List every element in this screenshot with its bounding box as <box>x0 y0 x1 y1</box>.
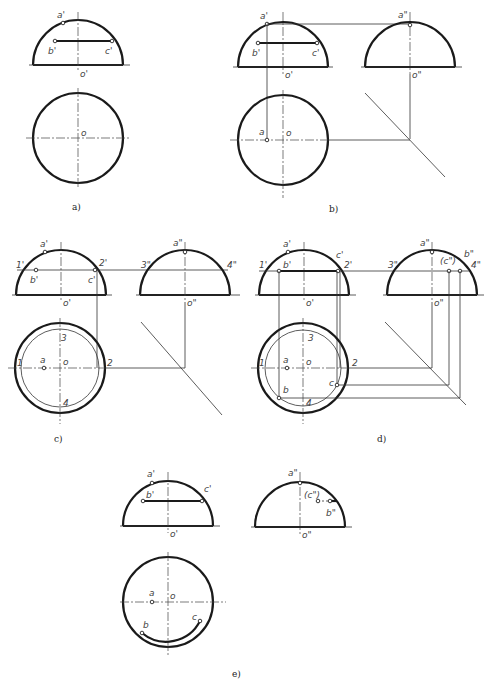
label-1-front: 1' <box>16 260 24 270</box>
point-c-front <box>93 268 97 272</box>
label-a-front: a' <box>57 10 65 20</box>
label-4-top: 4 <box>63 398 69 408</box>
point-c-top <box>335 383 339 387</box>
label-c-front: c' <box>204 484 211 494</box>
label-1-front: 1' <box>259 260 267 270</box>
point-b-front <box>53 39 57 43</box>
label-a-top: a <box>40 355 46 365</box>
point-c-front <box>315 41 319 45</box>
point-b-top <box>140 631 144 635</box>
label-c-front: c' <box>88 275 95 285</box>
point-b-front <box>141 499 145 503</box>
label-o-top: o <box>306 357 312 367</box>
hemisphere-projection-diagram: a' b' c' o' o a) a' b' c' o' a" o" <box>0 0 492 687</box>
point-a-top <box>285 366 289 370</box>
label-a-side: a" <box>420 238 430 248</box>
label-4-side: 4" <box>471 260 481 270</box>
label-a-top: a <box>283 355 289 365</box>
point-c-front <box>200 499 204 503</box>
point-a-front <box>43 250 47 254</box>
label-b-front: b' <box>283 260 291 270</box>
panel-c: a' b' c' 1' 2' o' a" 3" 4" o" a o 1 2 3 … <box>8 238 240 444</box>
point-c-front <box>110 39 114 43</box>
label-2-front: 2' <box>344 260 352 270</box>
label-a-top: a <box>149 588 155 598</box>
label-1-top: 1 <box>17 358 23 368</box>
label-b-front: b' <box>30 275 38 285</box>
label-o-side: o" <box>187 298 197 308</box>
label-a-top: a <box>259 127 265 137</box>
point-a-top <box>265 138 269 142</box>
label-o-side: o" <box>302 530 312 540</box>
panel-e: a' b' c' o' a" (c") b" o" a b c o e) <box>120 468 352 679</box>
label-a-front: a' <box>147 469 155 479</box>
panel-b: a' b' c' o' a" o" a o b) <box>230 10 462 214</box>
label-c-front: c' <box>105 46 112 56</box>
label-c-top: c <box>192 612 197 622</box>
label-o-top: o <box>286 128 292 138</box>
point-a-side <box>183 250 187 254</box>
point-a-front <box>150 481 154 485</box>
label-b-side: b" <box>326 508 336 518</box>
label-a-side: a" <box>398 10 408 20</box>
label-c-top: c <box>329 378 334 388</box>
label-3-side: 3" <box>388 260 398 270</box>
caption-a: a) <box>72 202 81 212</box>
point-a-top <box>150 600 154 604</box>
miter-line <box>385 322 466 405</box>
label-2-top: 2 <box>107 358 113 368</box>
label-b-front: b' <box>48 46 56 56</box>
caption-c: c) <box>54 434 63 444</box>
caption-b: b) <box>329 204 338 214</box>
label-2-top: 2 <box>352 358 358 368</box>
label-a-front: a' <box>260 11 268 21</box>
label-b-front: b' <box>146 490 154 500</box>
label-o-front: o' <box>285 70 293 80</box>
point-c-top <box>198 619 202 623</box>
label-o-front: o' <box>80 69 88 79</box>
label-3-side: 3" <box>141 260 151 270</box>
bc-top-arc <box>142 621 200 642</box>
label-1-top: 1 <box>259 358 265 368</box>
label-a-side: a" <box>173 238 183 248</box>
label-b-top: b <box>143 620 149 630</box>
miter-line <box>141 322 222 415</box>
label-o-top: o <box>63 357 69 367</box>
point-a-side <box>430 250 434 254</box>
point-b-top <box>277 396 281 400</box>
label-o-side: o" <box>412 70 422 80</box>
caption-e: e) <box>232 669 241 679</box>
point-a-front <box>286 250 290 254</box>
label-o-front: o' <box>63 298 71 308</box>
label-c-front: c' <box>336 250 343 260</box>
label-4-top: 4 <box>306 398 312 408</box>
label-3-top: 3 <box>308 333 314 343</box>
panel-a: a' b' c' o' o a) <box>26 10 131 212</box>
point-b-front <box>34 268 38 272</box>
point-a-top <box>42 366 46 370</box>
label-o-front: o' <box>170 529 178 539</box>
label-3-top: 3 <box>61 333 67 343</box>
label-c-side: (c") <box>304 490 320 500</box>
label-4-side: 4" <box>227 260 237 270</box>
label-o-side: o" <box>434 298 444 308</box>
label-a-front: a' <box>283 239 291 249</box>
point-a-side <box>408 23 412 27</box>
label-b-side: b" <box>464 249 474 259</box>
label-o-front: o' <box>306 298 314 308</box>
point-b-side <box>328 499 332 503</box>
miter-line <box>365 93 445 177</box>
point-b-front <box>256 41 260 45</box>
label-o-top: o <box>170 591 176 601</box>
label-2-front: 2' <box>99 258 107 268</box>
label-a-front: a' <box>40 239 48 249</box>
caption-d: d) <box>377 434 386 444</box>
point-a-front <box>61 21 65 25</box>
label-b-front: b' <box>252 48 260 58</box>
label-a-side: a" <box>288 468 298 478</box>
point-a-side <box>298 481 302 485</box>
label-c-side: (c") <box>440 256 456 266</box>
label-o-top: o <box>81 128 87 138</box>
label-c-front: c' <box>312 48 319 58</box>
panel-d: a' b' c' 1' 2' o' a" (c") b" 3" 4" o" <box>251 238 484 444</box>
